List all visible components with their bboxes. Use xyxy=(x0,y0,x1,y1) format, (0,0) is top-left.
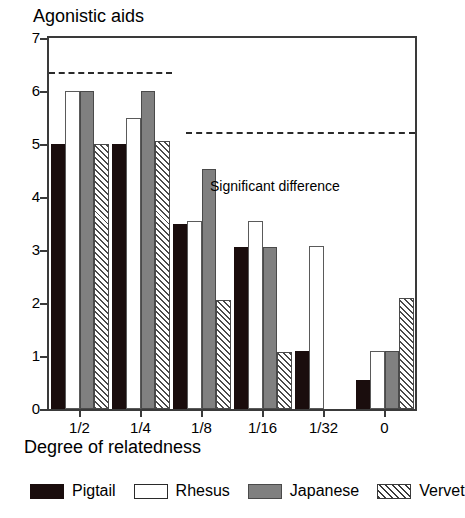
bar-pigtail-1-2[interactable] xyxy=(51,144,66,409)
x-tick-mark xyxy=(384,411,386,417)
y-tick-label: 7 xyxy=(18,30,40,45)
x-tick-label: 1/4 xyxy=(130,420,151,436)
plot-area: Significant difference xyxy=(47,36,417,411)
y-tick-mark xyxy=(40,144,47,146)
y-tick-mark xyxy=(40,197,47,199)
significant-difference-label: Significant difference xyxy=(210,178,340,194)
bar-rhesus-1-4[interactable] xyxy=(126,118,141,410)
chart-title: Agonistic aids xyxy=(33,6,144,27)
bar-japanese-0[interactable] xyxy=(385,351,400,409)
x-tick-mark xyxy=(323,411,325,417)
legend-item-japanese[interactable]: Japanese xyxy=(248,482,359,500)
legend-label-japanese: Japanese xyxy=(290,482,359,500)
bar-rhesus-0[interactable] xyxy=(370,351,385,409)
plot-inner: Significant difference xyxy=(49,38,415,409)
y-tick-mark xyxy=(40,409,47,411)
y-tick-label: 2 xyxy=(18,295,40,310)
bar-rhesus-1-32[interactable] xyxy=(309,246,324,409)
bar-vervet-1-16[interactable] xyxy=(277,352,292,409)
x-tick-mark xyxy=(201,411,203,417)
legend-swatch-pigtail xyxy=(30,484,64,499)
bar-vervet-0[interactable] xyxy=(399,298,414,409)
bar-rhesus-1-16[interactable] xyxy=(248,221,263,409)
bar-pigtail-1-4[interactable] xyxy=(112,144,127,409)
x-tick-mark xyxy=(140,411,142,417)
bar-japanese-1-8[interactable] xyxy=(202,169,217,409)
x-tick-label: 0 xyxy=(380,420,388,436)
bar-vervet-1-2[interactable] xyxy=(94,144,109,409)
bar-pigtail-0[interactable] xyxy=(356,380,371,409)
bar-rhesus-1-8[interactable] xyxy=(187,221,202,409)
legend-swatch-japanese xyxy=(248,484,282,499)
x-axis: 1/21/41/81/161/320 xyxy=(47,413,417,437)
legend-swatch-rhesus xyxy=(134,484,168,499)
chart-legend: PigtailRhesusJapaneseVervet xyxy=(30,479,440,503)
bar-vervet-1-8[interactable] xyxy=(216,300,231,409)
x-tick-label: 1/8 xyxy=(191,420,212,436)
y-tick-label: 0 xyxy=(18,401,40,416)
y-axis: 01234567 xyxy=(0,36,40,411)
y-tick-mark xyxy=(40,303,47,305)
x-tick-label: 1/16 xyxy=(248,420,277,436)
legend-item-pigtail[interactable]: Pigtail xyxy=(30,482,116,500)
y-tick-label: 6 xyxy=(18,83,40,98)
bar-pigtail-1-16[interactable] xyxy=(234,247,249,409)
bar-japanese-1-2[interactable] xyxy=(80,91,95,409)
x-tick-label: 1/32 xyxy=(309,420,338,436)
y-tick-mark xyxy=(40,38,47,40)
legend-label-pigtail: Pigtail xyxy=(72,482,116,500)
y-tick-mark xyxy=(40,356,47,358)
x-tick-label: 1/2 xyxy=(69,420,90,436)
x-tick-mark xyxy=(262,411,264,417)
bar-pigtail-1-8[interactable] xyxy=(173,224,188,410)
bar-rhesus-1-2[interactable] xyxy=(65,91,80,409)
bar-japanese-1-4[interactable] xyxy=(141,91,156,409)
bar-vervet-1-4[interactable] xyxy=(155,141,170,409)
legend-item-vervet[interactable]: Vervet xyxy=(377,482,464,500)
significance-line-right xyxy=(186,132,415,134)
y-tick-mark xyxy=(40,250,47,252)
bar-japanese-1-16[interactable] xyxy=(263,247,278,409)
y-tick-mark xyxy=(40,91,47,93)
y-tick-label: 4 xyxy=(18,189,40,204)
y-tick-label: 3 xyxy=(18,242,40,257)
y-tick-label: 1 xyxy=(18,348,40,363)
x-axis-title: Degree of relatedness xyxy=(24,437,201,458)
significance-line-left xyxy=(49,72,172,74)
x-tick-mark xyxy=(79,411,81,417)
bar-pigtail-1-32[interactable] xyxy=(295,351,310,409)
legend-label-rhesus: Rhesus xyxy=(176,482,230,500)
legend-item-rhesus[interactable]: Rhesus xyxy=(134,482,230,500)
legend-swatch-vervet xyxy=(377,484,411,499)
legend-label-vervet: Vervet xyxy=(419,482,464,500)
y-tick-label: 5 xyxy=(18,136,40,151)
